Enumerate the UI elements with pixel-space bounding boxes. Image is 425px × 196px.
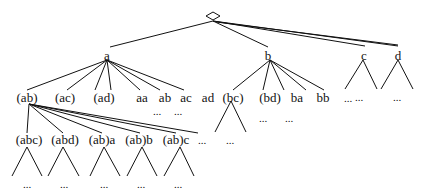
abd-subtree: ... xyxy=(48,147,79,190)
node-ab-b: (ab)b xyxy=(125,132,152,147)
bc-subtree: ... xyxy=(215,101,246,146)
ellipsis-ba: ... xyxy=(259,112,268,124)
ellipsis-aa: ... xyxy=(153,105,162,117)
node-abd-paren: (abd) xyxy=(51,132,78,147)
node-ac-paren: (ac) xyxy=(55,90,75,105)
ab-c-subtree: ... xyxy=(164,147,194,190)
node-aa: aa xyxy=(136,90,148,105)
node-ab-c: (ab)c xyxy=(163,132,190,147)
ellipsis-d: ... xyxy=(393,91,402,103)
node-ba: ba xyxy=(291,90,304,105)
ellipsis-bc: ... xyxy=(226,134,235,146)
node-bc-paren: (bc) xyxy=(223,90,244,105)
node-abc-paren: (abc) xyxy=(16,132,43,147)
ab-b-subtree: ... xyxy=(127,147,157,190)
root-diamond-icon xyxy=(206,12,220,20)
node-ad: ad xyxy=(202,90,215,105)
ellipsis-ab-b: ... xyxy=(137,178,146,190)
ab-a-subtree: ... xyxy=(90,147,120,190)
b-edges xyxy=(233,60,324,90)
ellipsis-b-more: ... xyxy=(344,92,353,104)
root-edges xyxy=(110,21,398,47)
ellipsis-ab: ... xyxy=(174,105,183,117)
ellipsis-bb: ... xyxy=(285,112,294,124)
node-ab-a: (ab)a xyxy=(89,132,116,147)
ellipsis-abc: ... xyxy=(23,178,32,190)
a-edges xyxy=(27,60,184,90)
node-ad-paren: (ad) xyxy=(94,90,115,105)
ellipsis-c: ... xyxy=(355,91,364,103)
node-ab: ab xyxy=(159,90,171,105)
node-ab-paren: (ab) xyxy=(17,90,38,105)
ellipsis-ab-a: ... xyxy=(100,178,109,190)
node-bd-paren: (bd) xyxy=(259,90,281,105)
abc-subtree: ... xyxy=(12,147,42,190)
ellipsis-ab-c: ... xyxy=(174,178,183,190)
node-bb: bb xyxy=(317,90,330,105)
prefix-tree-diagram: a b c d (ab) (ac) (ad) aa ab ac ad ... .… xyxy=(0,0,425,196)
node-ac: ac xyxy=(180,90,192,105)
ellipsis-abd: ... xyxy=(60,178,69,190)
ellipsis-ab-more: ... xyxy=(198,134,207,146)
d-subtree: ... xyxy=(381,60,413,103)
ab-edges xyxy=(27,104,198,133)
